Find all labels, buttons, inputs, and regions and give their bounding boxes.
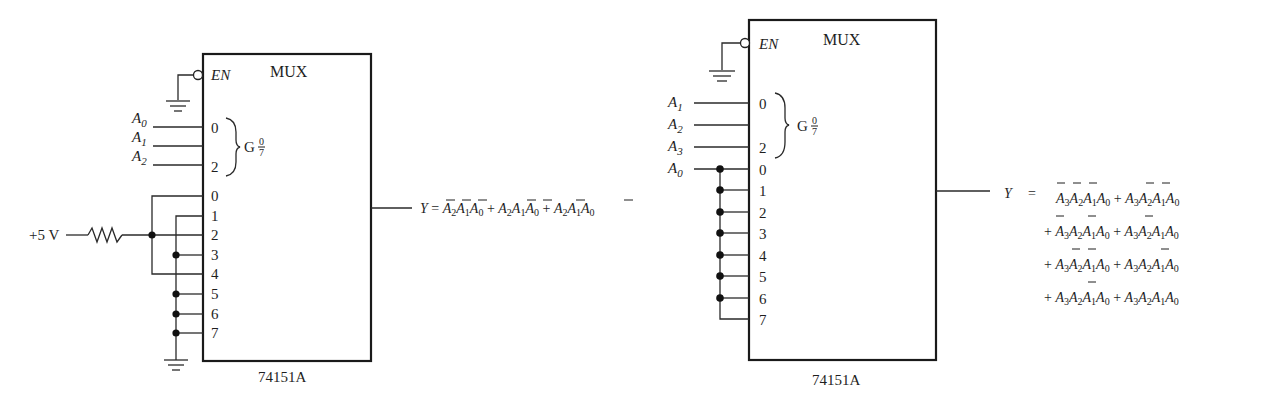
left-enable-wire	[178, 75, 193, 100]
left-mux-title: MUX	[270, 63, 308, 80]
right-enable-label: EN	[758, 36, 779, 52]
left-data-pin-label: 2	[211, 227, 219, 243]
right-enable-bubble-icon	[741, 39, 750, 48]
right-select-pin-0: 0	[759, 96, 767, 112]
left-select-a1-label: A1	[131, 129, 147, 148]
left-data-ground-icon	[164, 360, 188, 370]
junction-dot-icon	[716, 208, 724, 216]
right-output-expression: Y = A3A2A1A0 + A3A2A1A0 + A3A2A1A0 + A3A…	[1004, 183, 1179, 307]
right-select-a2-label: A2	[667, 116, 683, 135]
junction-dot-icon	[172, 290, 179, 297]
left-part-number: 74151A	[258, 369, 307, 385]
left-select-a2-label: A2	[131, 148, 147, 167]
left-group-frac-bottom: 7	[259, 147, 264, 158]
left-circuit: MUX 74151A EN A0 A1 A2 0 2 G 0 7	[29, 54, 633, 385]
right-a0-bus: A0	[667, 160, 749, 319]
right-data-pin-label: 6	[759, 291, 767, 307]
right-group-frac-bottom: 7	[812, 126, 817, 137]
junction-dot-icon	[172, 251, 179, 258]
right-data-pin-label: 7	[759, 312, 767, 328]
right-select-pin-2: 2	[759, 140, 767, 156]
right-data-pin-label: 3	[759, 226, 767, 242]
left-high-bus: +5 V	[29, 196, 203, 274]
left-data-pin-label: 7	[211, 325, 219, 341]
right-select-a3-label: A3	[667, 138, 683, 157]
right-group-label: G	[797, 118, 808, 134]
junction-dot-icon	[148, 231, 155, 238]
left-data-pin-label: 0	[211, 188, 219, 204]
right-mux-box	[749, 20, 936, 360]
left-group-label: G	[244, 139, 255, 155]
junction-dot-icon	[172, 310, 179, 317]
right-data-a0-label: A0	[667, 160, 683, 179]
junction-dot-icon	[716, 272, 724, 280]
left-select-a0-label: A0	[131, 110, 147, 129]
right-output-equals: =	[1028, 186, 1036, 201]
resistor-icon	[88, 228, 122, 242]
junction-dot-icon	[716, 186, 724, 194]
left-enable-label: EN	[210, 67, 231, 83]
junction-dot-icon	[716, 294, 724, 302]
right-output-y: Y	[1004, 186, 1014, 201]
supply-label: +5 V	[29, 227, 59, 243]
junction-dot-icon	[716, 165, 724, 173]
svg-text:+ A3A2A1A0 + A3A2A1A0: + A3A2A1A0 + A3A2A1A0	[1044, 224, 1179, 241]
left-data-pin-label: 1	[211, 208, 219, 224]
diagram-canvas: MUX 74151A EN A0 A1 A2 0 2 G 0 7	[0, 0, 1262, 404]
right-circuit: MUX 74151A EN A1 A2 A3 0 2 G 0 7 0 1	[667, 20, 1179, 388]
svg-text:Y = A2A1A0 +: Y = A2A1A0 + A2A1A0 + A2A1A0	[420, 201, 595, 219]
left-low-bus	[164, 216, 203, 370]
junction-dot-icon	[716, 251, 724, 259]
right-data-pin-label: 5	[759, 269, 767, 285]
right-select-a1-label: A1	[667, 94, 683, 113]
junction-dot-icon	[716, 229, 724, 237]
left-output-expression: Y = A2A1A0 + A2A1A0 + A2A1A0	[420, 200, 633, 219]
left-select-pin-0: 0	[211, 120, 219, 136]
svg-text:+ A3A2A1A0 + A3A2A1A0: + A3A2A1A0 + A3A2A1A0	[1044, 257, 1179, 274]
right-data-pin-label: 2	[759, 205, 767, 221]
left-mux-box	[203, 54, 371, 361]
right-mux-title: MUX	[823, 31, 861, 48]
right-enable-ground-icon	[709, 71, 735, 81]
left-data-pin-label: 6	[211, 306, 219, 322]
right-data-pin-label: 4	[759, 248, 767, 264]
svg-text:+ A3A2A1A0 + A3A2A1A0: + A3A2A1A0 + A3A2A1A0	[1044, 290, 1179, 307]
right-group-frac-top: 0	[812, 115, 817, 126]
right-data-pin-label: 0	[759, 162, 767, 178]
right-part-number: 74151A	[812, 372, 861, 388]
left-data-pin-label: 5	[211, 286, 219, 302]
left-enable-ground-icon	[166, 101, 190, 111]
left-enable-bubble-icon	[194, 71, 203, 80]
left-group-frac-top: 0	[259, 136, 264, 147]
left-data-pin-label: 3	[211, 247, 219, 263]
junction-dot-icon	[172, 329, 179, 336]
svg-text:A3A2A1A0 + A3A2A1A0: A3A2A1A0 + A3A2A1A0	[1055, 191, 1179, 208]
right-enable-wire	[722, 43, 740, 70]
right-data-pin-label: 1	[759, 183, 767, 199]
left-data-pin-label: 4	[211, 266, 219, 282]
left-select-pin-2: 2	[211, 159, 219, 175]
